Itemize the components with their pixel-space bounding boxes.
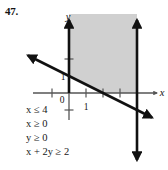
y-axis-label: y [65,11,71,22]
constraint-x-plus-2y-ge-2: x + 2y ≥ 2 [26,145,69,158]
x-axis-label: x [159,87,165,98]
y-tick-label-1: 1 [61,72,66,82]
constraint-list: x ≤ 4 x ≥ 0 y ≥ 0 x + 2y ≥ 2 [26,103,69,158]
constraint-x-ge-0: x ≥ 0 [26,117,69,130]
constraint-y-ge-0: y ≥ 0 [26,131,69,144]
constraint-x-le-4: x ≤ 4 [26,103,69,116]
x-tick-label-1: 1 [84,102,89,112]
figure-container: 47. y x [0,0,168,170]
